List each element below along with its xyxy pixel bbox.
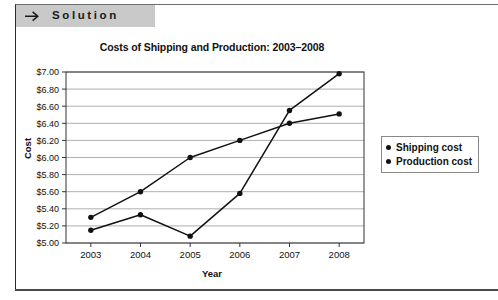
legend-item-production-cost: Production cost xyxy=(386,154,472,168)
x-axis-tick-label: 2003 xyxy=(80,249,101,260)
y-axis-tick-label: $5.00 xyxy=(36,238,59,248)
data-point-marker xyxy=(138,212,143,217)
legend-marker-icon xyxy=(386,159,391,164)
x-axis-tick-label: 2004 xyxy=(130,249,151,260)
y-axis-tick-label: $5.60 xyxy=(36,187,59,197)
legend-label: Production cost xyxy=(396,156,472,167)
data-point-marker xyxy=(88,215,93,220)
y-axis-tick-label: $6.20 xyxy=(36,136,59,146)
data-line xyxy=(91,114,339,217)
x-axis-tick-label: 2007 xyxy=(279,249,300,260)
data-point-marker xyxy=(237,138,242,143)
legend-label: Shipping cost xyxy=(396,142,462,153)
y-axis-tick-label: $5.20 xyxy=(36,221,59,231)
data-point-marker xyxy=(138,189,143,194)
y-axis-tick-label: $7.00 xyxy=(36,67,59,77)
data-line xyxy=(91,74,339,236)
y-axis-tick-label: $5.80 xyxy=(36,170,59,180)
data-point-marker xyxy=(187,233,192,238)
y-axis-tick-label: $6.80 xyxy=(36,85,59,95)
chart-legend: Shipping cost Production cost xyxy=(381,136,479,173)
data-point-marker xyxy=(336,71,341,76)
x-axis-title: Year xyxy=(62,268,362,279)
data-point-marker xyxy=(187,155,192,160)
data-point-marker xyxy=(336,111,341,116)
y-axis-tick-label: $5.40 xyxy=(36,204,59,214)
data-point-marker xyxy=(287,108,292,113)
x-axis-tick-label: 2006 xyxy=(229,249,250,260)
y-axis-tick-label: $6.40 xyxy=(36,119,59,129)
data-point-marker xyxy=(88,227,93,232)
y-axis-title: Cost xyxy=(22,119,33,179)
y-axis-tick-label: $6.60 xyxy=(36,102,59,112)
legend-item-shipping-cost: Shipping cost xyxy=(386,140,472,154)
legend-marker-icon xyxy=(386,145,391,150)
data-point-marker xyxy=(287,121,292,126)
y-axis-tick-label: $6.00 xyxy=(36,153,59,163)
data-point-marker xyxy=(237,191,242,196)
x-axis-tick-label: 2005 xyxy=(180,249,201,260)
x-axis-tick-label: 2008 xyxy=(329,249,350,260)
